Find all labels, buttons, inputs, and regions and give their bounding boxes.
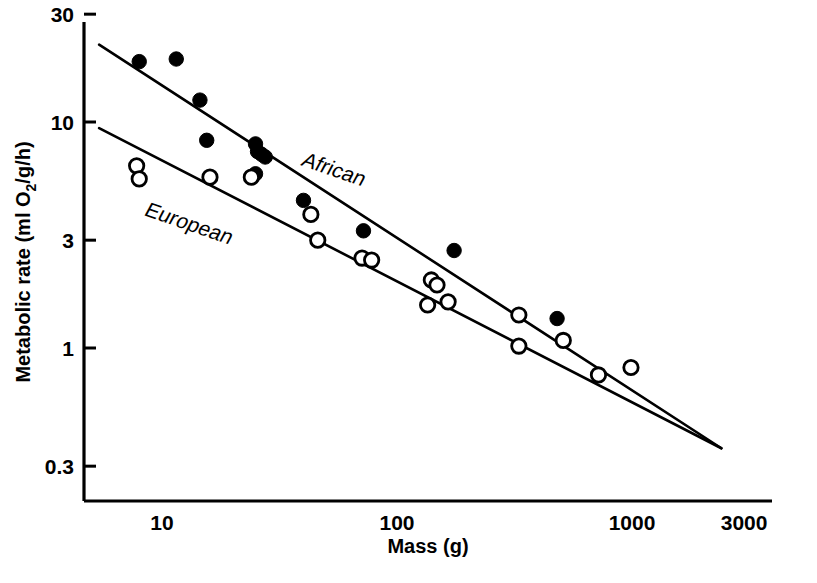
data-point-european — [132, 172, 146, 186]
series-label-european: European — [141, 198, 238, 248]
x-tick-label: 1000 — [609, 511, 656, 534]
data-point-european — [304, 207, 318, 221]
data-point-african — [169, 52, 183, 66]
data-point-african — [296, 193, 310, 207]
y-axis-title-post: /g/h) — [12, 141, 34, 183]
x-axis-title: Mass (g) — [387, 535, 468, 557]
data-point-african — [132, 54, 146, 68]
svg-text:Metabolic rate (ml O2/g/h): Metabolic rate (ml O2/g/h) — [12, 141, 39, 382]
data-point-european — [624, 360, 638, 374]
y-axis-ticks: 3010310.3 — [45, 3, 96, 478]
data-point-european — [311, 233, 325, 247]
data-point-african — [200, 133, 214, 147]
metabolic-rate-scatter-figure: 3010310.3 1010010003000 AfricanEuropean … — [0, 0, 817, 583]
regression-line-african — [99, 45, 721, 449]
x-axis-ticks: 1010010003000 — [150, 511, 767, 534]
regression-line-european — [99, 128, 721, 448]
y-axis-title-subscript: 2 — [23, 183, 39, 191]
data-point-african — [356, 224, 370, 238]
data-point-african — [447, 243, 461, 257]
x-tick-label: 10 — [150, 511, 173, 534]
y-tick-label: 10 — [51, 111, 74, 134]
data-point-african — [258, 150, 272, 164]
data-point-european — [512, 339, 526, 353]
y-tick-label: 30 — [51, 3, 74, 26]
y-axis-title-pre: Metabolic rate (ml O — [12, 191, 34, 382]
data-point-european — [556, 333, 570, 347]
data-point-european — [244, 170, 258, 184]
x-tick-label: 3000 — [721, 511, 768, 534]
y-tick-label: 0.3 — [45, 455, 74, 478]
y-tick-label: 1 — [62, 337, 74, 360]
data-point-european — [364, 253, 378, 267]
y-tick-label: 3 — [62, 229, 74, 252]
y-axis-title: Metabolic rate (ml O2/g/h) — [12, 141, 39, 382]
data-point-african — [550, 311, 564, 325]
series-label-african: African — [298, 148, 371, 190]
x-tick-label: 100 — [379, 511, 414, 534]
chart-canvas: 3010310.3 1010010003000 AfricanEuropean … — [0, 0, 817, 583]
data-point-european — [420, 298, 434, 312]
data-point-european — [512, 308, 526, 322]
data-point-european — [203, 170, 217, 184]
axes — [84, 22, 772, 501]
data-point-african — [193, 93, 207, 107]
regression-lines — [99, 45, 721, 449]
data-point-european — [441, 295, 455, 309]
data-point-european — [591, 368, 605, 382]
data-point-european — [430, 278, 444, 292]
